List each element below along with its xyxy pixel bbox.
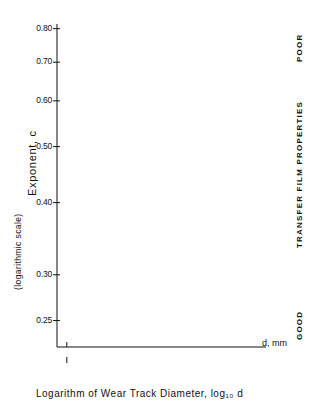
y-tick-label: 0.60 — [22, 95, 52, 105]
y-tick-label: 0.30 — [22, 269, 52, 279]
y-tick-label: 0.80 — [22, 23, 52, 33]
plot-frame — [57, 24, 266, 347]
x-axis-title: Logarithm of Wear Track Diameter, log₁₀ … — [36, 388, 243, 399]
y-tick-label: 0.70 — [22, 56, 52, 66]
y-axis-title: Exponent, c — [26, 130, 38, 196]
y-tick-label: 0.25 — [22, 315, 52, 325]
y-axis-subtitle: (logarithmic scale) — [13, 213, 23, 290]
x-secondary-unit-label: d, mm — [262, 338, 287, 348]
right-axis-bottom-label: GOOD — [295, 311, 304, 340]
right-axis-label: TRANSFER FILM PROPERTIES — [295, 101, 304, 248]
y-tick-label: 0.40 — [22, 197, 52, 207]
right-axis-top-label: POOR — [295, 34, 304, 62]
chart-figure: 0.800.700.600.500.400.300.25 Exponent, c… — [0, 0, 312, 410]
